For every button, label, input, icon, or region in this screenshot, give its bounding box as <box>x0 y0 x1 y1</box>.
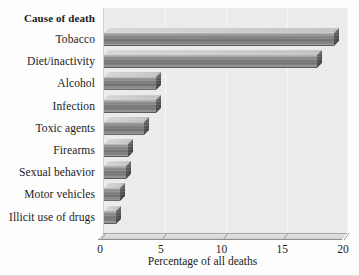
category-label: Firearms <box>53 144 95 156</box>
x-axis: 05101520 <box>98 231 348 245</box>
bar-chart: Cause of death TobaccoDiet/inactivityAlc… <box>0 0 359 276</box>
bar <box>104 161 131 174</box>
category-label: Illicit use of drugs <box>9 211 95 223</box>
plot-area <box>103 8 348 234</box>
category-label: Tobacco <box>56 33 95 45</box>
bar-side-face <box>120 183 125 201</box>
bar <box>104 117 149 130</box>
bar-front-face <box>104 166 126 179</box>
category-label: Sexual behavior <box>19 166 95 178</box>
bar <box>104 139 133 152</box>
x-tick-label: 5 <box>158 243 164 255</box>
bar-side-face <box>126 161 131 179</box>
bar-front-face <box>104 55 317 68</box>
x-tick-label: 20 <box>337 243 349 255</box>
bar <box>104 28 339 41</box>
bar-front-face <box>104 77 156 90</box>
bar-side-face <box>156 95 161 113</box>
x-axis-title: Percentage of all deaths <box>0 255 359 267</box>
bar-front-face <box>104 33 334 46</box>
bar-side-face <box>317 50 322 68</box>
bar <box>104 95 161 108</box>
category-axis-title: Cause of death <box>24 12 95 24</box>
bar-side-face <box>156 72 161 90</box>
bar-front-face <box>104 188 120 201</box>
bar-side-face <box>144 117 149 135</box>
bar-front-face <box>104 122 144 135</box>
bar-side-face <box>128 139 133 157</box>
bar <box>104 50 322 63</box>
bar-front-face <box>104 211 116 224</box>
x-tick-label: 10 <box>216 243 228 255</box>
x-tick-label: 15 <box>277 243 289 255</box>
bar-side-face <box>334 28 339 46</box>
axis-line-back <box>103 233 347 234</box>
category-labels: Cause of death TobaccoDiet/inactivityAlc… <box>0 8 99 234</box>
axis-line-front <box>98 239 342 240</box>
bar <box>104 206 121 219</box>
bar <box>104 72 161 85</box>
bar-side-face <box>116 206 121 224</box>
category-label: Diet/inactivity <box>27 55 95 67</box>
gridline-20 <box>347 8 348 234</box>
category-label: Alcohol <box>57 77 95 89</box>
x-tick-label: 0 <box>97 243 103 255</box>
bar-front-face <box>104 144 128 157</box>
category-label: Toxic agents <box>36 122 95 134</box>
category-label: Infection <box>53 100 95 112</box>
bar <box>104 183 125 196</box>
category-label: Motor vehicles <box>24 188 95 200</box>
bar-front-face <box>104 100 156 113</box>
